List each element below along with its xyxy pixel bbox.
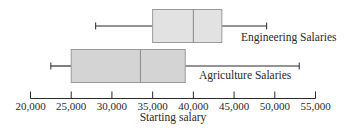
series-label: Agriculture Salaries [199,69,292,82]
iqr-box [153,10,222,43]
x-axis: 20,00025,00030,00035,00040,00045,00050,0… [15,92,331,113]
x-tick-label: 20,000 [15,100,46,112]
x-tick-label: 25,000 [56,100,87,112]
x-tick-label: 55,000 [300,100,331,112]
series-label: Engineering Salaries [241,31,337,44]
box-agriculture-salaries: Agriculture Salaries [51,50,299,83]
x-tick-label: 50,000 [260,100,291,112]
box-plot-chart: Engineering SalariesAgriculture Salaries… [0,0,347,133]
x-axis-label: Starting salary [140,111,207,124]
x-tick-label: 45,000 [219,100,250,112]
x-tick-label: 30,000 [97,100,128,112]
iqr-box [71,50,185,83]
plot-area: Engineering SalariesAgriculture Salaries [51,10,337,83]
box-engineering-salaries: Engineering Salaries [96,10,337,45]
